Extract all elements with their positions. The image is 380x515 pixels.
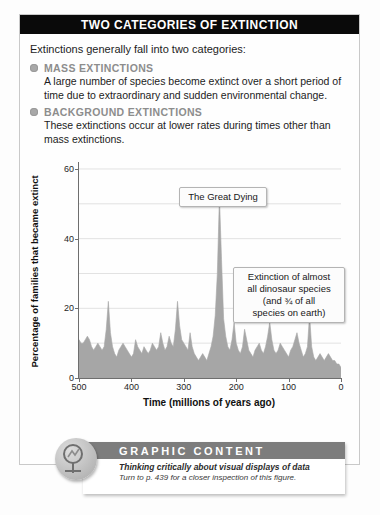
x-axis-tickmark: [341, 378, 342, 382]
x-axis-tick: 500: [71, 382, 86, 392]
y-axis-tickmark: [75, 308, 79, 309]
category-body: A large number of species become extinct…: [44, 75, 342, 102]
category-background-extinctions: BACKGROUND EXTINCTIONS These extinctions…: [30, 106, 342, 146]
x-axis-tick: 200: [229, 382, 244, 392]
category-heading-row: BACKGROUND EXTINCTIONS: [30, 106, 342, 118]
x-axis-tick: 400: [124, 382, 139, 392]
extinction-chart: Percentage of families that became extin…: [30, 152, 350, 420]
y-axis-label-text: Percentage of families that became extin…: [29, 175, 40, 367]
callout-dinosaur-extinction: Extinction of almostall dinosaur species…: [233, 267, 345, 323]
category-mass-extinctions: MASS EXTINCTIONS A large number of speci…: [30, 62, 342, 102]
y-axis-tick: 60: [64, 164, 74, 174]
category-body: These extinctions occur at lower rates d…: [44, 119, 342, 146]
y-axis-label: Percentage of families that became extin…: [26, 154, 42, 389]
callout-line: (and ¾ of all: [240, 295, 338, 307]
x-axis-tick: 0: [338, 382, 343, 392]
x-axis-tick: 300: [176, 382, 191, 392]
graphic-content-subtitle-1: Thinking critically about visual display…: [119, 462, 343, 472]
y-axis-tick: 40: [64, 234, 74, 244]
y-axis-tick: 20: [64, 303, 74, 313]
category-heading-row: MASS EXTINCTIONS: [30, 62, 342, 74]
graphic-content-footer: GRAPHIC CONTENT Thinking critically abou…: [55, 438, 345, 496]
y-axis-tickmark: [75, 169, 79, 170]
graphic-content-card: GRAPHIC CONTENT Thinking critically abou…: [83, 442, 345, 494]
intro-text: Extinctions generally fall into two cate…: [30, 42, 340, 56]
graphic-content-title: GRAPHIC CONTENT: [83, 442, 345, 459]
callout-the-great-dying: The Great Dying: [179, 187, 267, 207]
bullet-icon: [30, 108, 38, 116]
x-axis-tickmark: [236, 378, 237, 382]
graphic-content-subtitle-2: Turn to p. 439 for a closer inspection o…: [119, 473, 343, 482]
x-axis-tick: 100: [281, 382, 296, 392]
figure-root: TWO CATEGORIES OF EXTINCTION Extinctions…: [0, 0, 380, 515]
x-axis-tickmark: [184, 378, 185, 382]
x-axis-label: Time (millions of years ago): [78, 397, 340, 408]
bullet-icon: [30, 64, 38, 72]
callout-line: all dinosaur species: [240, 283, 338, 295]
y-axis-tickmark: [75, 239, 79, 240]
x-axis-tickmark: [79, 378, 80, 382]
callout-line: species on earth): [240, 307, 338, 319]
category-title: MASS EXTINCTIONS: [44, 62, 153, 74]
panel-title: TWO CATEGORIES OF EXTINCTION: [20, 15, 359, 34]
callout-line: Extinction of almost: [240, 271, 338, 283]
magnifier-chart-icon: [55, 438, 97, 480]
category-title: BACKGROUND EXTINCTIONS: [44, 106, 202, 118]
x-axis-tickmark: [289, 378, 290, 382]
x-axis-tickmark: [131, 378, 132, 382]
